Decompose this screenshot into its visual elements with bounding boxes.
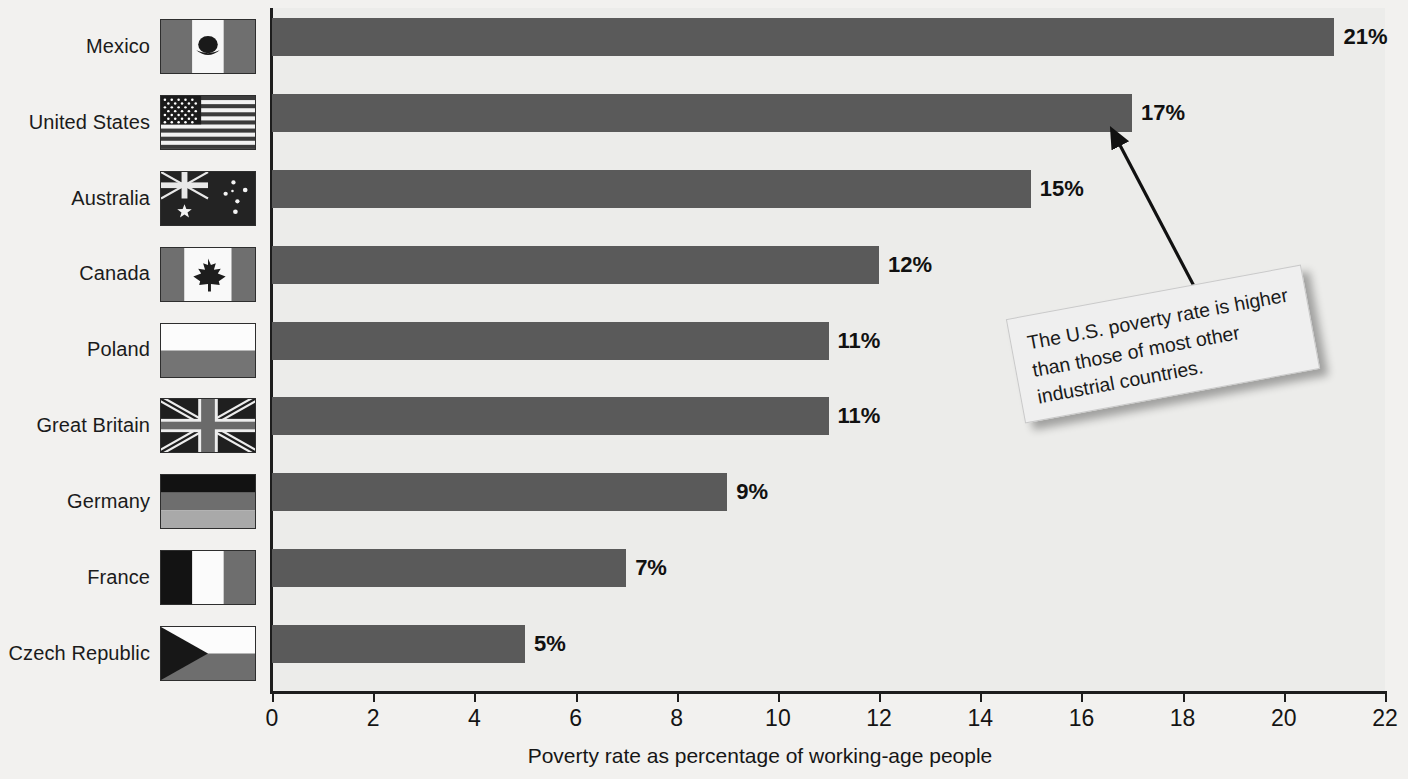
x-tick — [576, 691, 578, 702]
bar-value-label: 11% — [829, 397, 881, 435]
x-axis-line — [270, 691, 1387, 694]
chart-row: Australia — [0, 160, 275, 236]
country-label: Mexico — [0, 8, 150, 84]
x-tick-label: 14 — [950, 705, 1010, 732]
united-states-flag — [160, 95, 256, 150]
bar — [272, 246, 879, 284]
x-tick — [1183, 691, 1185, 702]
x-tick — [980, 691, 982, 702]
x-tick — [1284, 691, 1286, 702]
bar-value-label: 5% — [525, 625, 566, 663]
x-tick-label: 16 — [1051, 705, 1111, 732]
bar-value-label: 21% — [1334, 18, 1387, 56]
bar-value-label: 7% — [626, 549, 667, 587]
x-tick — [778, 691, 780, 702]
chart-row: Mexico — [0, 8, 275, 84]
bar — [272, 322, 829, 360]
germany-flag — [160, 474, 256, 529]
x-tick-label: 8 — [647, 705, 707, 732]
x-tick — [474, 691, 476, 702]
x-axis-title-text: Poverty rate as percentage of working-ag… — [528, 744, 993, 767]
czech-republic-flag — [160, 626, 256, 681]
x-tick — [879, 691, 881, 702]
x-axis-title: Poverty rate as percentage of working-ag… — [0, 744, 1408, 768]
bar — [272, 170, 1031, 208]
chart-row: Poland — [0, 312, 275, 388]
x-tick — [272, 691, 274, 702]
france-flag — [160, 550, 256, 605]
bar-value-label: 11% — [829, 322, 881, 360]
bar-value-label: 15% — [1031, 170, 1084, 208]
bar-value-label: 17% — [1132, 94, 1185, 132]
country-label: Poland — [0, 312, 150, 388]
bar — [272, 549, 626, 587]
x-tick — [373, 691, 375, 702]
poverty-rate-bar-chart: Mexico United States Australia — [0, 0, 1408, 779]
x-tick-label: 6 — [546, 705, 606, 732]
bar — [272, 397, 829, 435]
bar — [272, 18, 1334, 56]
x-tick-label: 0 — [242, 705, 302, 732]
chart-row: France — [0, 539, 275, 615]
chart-row: Canada — [0, 236, 275, 312]
bar — [272, 94, 1132, 132]
bar-value-label: 12% — [879, 246, 932, 284]
chart-row: Czech Republic — [0, 615, 275, 691]
x-tick-label: 2 — [343, 705, 403, 732]
country-label: Great Britain — [0, 387, 150, 463]
bar — [272, 473, 727, 511]
poland-flag — [160, 323, 256, 378]
bar — [272, 625, 525, 663]
x-tick — [1385, 691, 1387, 702]
x-tick-label: 4 — [444, 705, 504, 732]
chart-row: Great Britain — [0, 387, 275, 463]
x-tick-label: 12 — [849, 705, 909, 732]
x-tick-label: 22 — [1355, 705, 1408, 732]
mexico-flag — [160, 19, 256, 74]
great-britain-flag — [160, 398, 256, 453]
x-tick — [677, 691, 679, 702]
country-label: Czech Republic — [0, 615, 150, 691]
country-label: Germany — [0, 463, 150, 539]
chart-row: United States — [0, 84, 275, 160]
country-label: United States — [0, 84, 150, 160]
australia-flag — [160, 171, 256, 226]
country-label: Canada — [0, 236, 150, 312]
x-tick — [1081, 691, 1083, 702]
country-label: France — [0, 539, 150, 615]
x-tick-label: 20 — [1254, 705, 1314, 732]
canada-flag — [160, 247, 256, 302]
chart-row: Germany — [0, 463, 275, 539]
x-tick-label: 18 — [1153, 705, 1213, 732]
x-tick-label: 10 — [748, 705, 808, 732]
bar-value-label: 9% — [727, 473, 768, 511]
country-label: Australia — [0, 160, 150, 236]
